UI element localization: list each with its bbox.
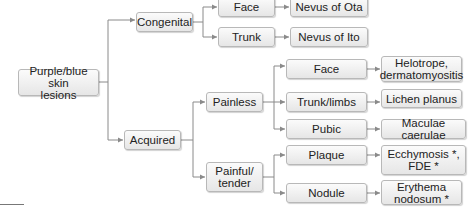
node-acquired: Acquired (124, 130, 181, 150)
node-lichen-planus: Lichen planus (381, 89, 462, 108)
node-nevus-of-ito: Nevus of Ito (290, 27, 368, 47)
node-plaque: Plaque (286, 145, 367, 165)
node-root: Purple/blue skin lesions (18, 69, 99, 96)
node-acquired-face: Face (286, 59, 367, 79)
node-maculae-caerulae: Maculae caerulae (381, 119, 466, 139)
node-helotrope-dermatomyositis: Helotrope, dermatomyositis (381, 56, 462, 82)
node-congenital-trunk: Trunk (218, 27, 275, 47)
node-congenital: Congenital (136, 12, 193, 32)
node-erythema-nodosum: Erythema nodosum * (381, 180, 462, 205)
node-painful-tender: Painful/ tender (206, 162, 263, 192)
node-nodule: Nodule (286, 183, 367, 203)
node-painless: Painless (206, 92, 263, 112)
footnote-rule (0, 204, 24, 205)
node-ecchymosis-fde: Ecchymosis *, FDE * (381, 145, 466, 175)
node-congenital-face: Face (218, 0, 275, 17)
node-trunk-limbs: Trunk/limbs (286, 92, 367, 112)
node-nevus-of-ota: Nevus of Ota (290, 0, 368, 17)
node-pubic: Pubic (286, 119, 367, 139)
